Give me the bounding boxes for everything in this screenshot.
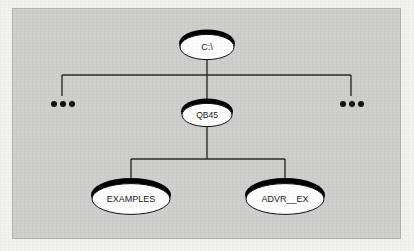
left-ellipsis-dot-3 [69, 101, 75, 107]
node-examples[interactable]: EXAMPLES [91, 178, 171, 214]
node-advr-ex[interactable]: ADVR__EX [245, 178, 325, 214]
right-ellipsis-dot-1 [340, 101, 346, 107]
right-ellipsis-marker [340, 101, 364, 107]
right-ellipsis-dot-3 [358, 101, 364, 107]
node-examples-label: EXAMPLES [107, 194, 156, 204]
node-qb45-label: QB45 [196, 110, 218, 120]
left-ellipsis-dot-2 [60, 101, 66, 107]
node-advr-ex-label: ADVR__EX [261, 194, 308, 204]
node-root[interactable]: C:\ [179, 30, 235, 60]
node-root-label: C:\ [201, 42, 213, 52]
node-qb45[interactable]: QB45 [181, 99, 233, 127]
left-ellipsis-marker [51, 101, 75, 107]
directory-tree-diagram: C:\ QB45 EXAMPLES ADVR__EX [0, 0, 414, 251]
left-ellipsis-dot-1 [51, 101, 57, 107]
right-ellipsis-dot-2 [349, 101, 355, 107]
figure-canvas: C:\ QB45 EXAMPLES ADVR__EX [0, 0, 414, 251]
